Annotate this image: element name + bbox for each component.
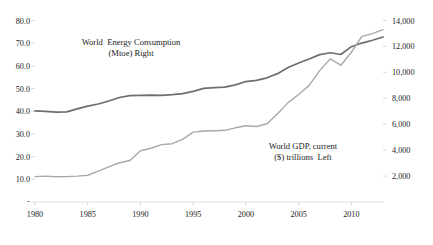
right-axis-tick-label: 8,000 xyxy=(392,94,410,103)
chart-container: -10.020.030.040.050.060.070.080.0 2,0004… xyxy=(0,0,433,245)
energy-annotation-line2: (Mtoe) Right xyxy=(108,48,154,58)
energy-annotation-line1: World Energy Consumption xyxy=(82,37,181,47)
left-axis-tick-label: 40.0 xyxy=(16,107,30,116)
x-axis-tick-label: 1995 xyxy=(185,210,201,219)
left-axis-tick-label: 10.0 xyxy=(16,175,30,184)
left-axis-tick-label: 20.0 xyxy=(16,153,30,162)
gdp-annotation-line2: ($) trillions Left xyxy=(274,152,332,162)
right-axis-tick-label: 4,000 xyxy=(392,146,410,155)
gdp-series-annotation: World GDP, current ($) trillions Left xyxy=(269,141,338,162)
right-axis-tick-label: 12,000 xyxy=(392,42,415,51)
x-axis-tick-label: 1985 xyxy=(80,210,96,219)
left-axis-tick-label: 70.0 xyxy=(16,39,30,48)
left-axis-tick-label: 60.0 xyxy=(16,62,30,71)
x-axis-tick-label: 1980 xyxy=(27,210,43,219)
x-axis-tick-label: 2000 xyxy=(238,210,254,219)
left-axis-tick-label: - xyxy=(27,197,30,206)
left-axis-tick-label: 30.0 xyxy=(16,130,30,139)
right-axis-tick-label: 10,000 xyxy=(392,68,415,77)
gdp-annotation-line1: World GDP, current xyxy=(269,141,338,151)
x-axis-tick-label: 2010 xyxy=(343,210,359,219)
right-axis-tick-label: 2,000 xyxy=(392,172,410,181)
x-axis-tick-label: 2005 xyxy=(290,210,306,219)
dual-axis-line-chart: -10.020.030.040.050.060.070.080.0 2,0004… xyxy=(0,0,433,245)
left-axis-tick-label: 50.0 xyxy=(16,85,30,94)
chart-background xyxy=(0,0,433,245)
x-axis-tick-label: 1990 xyxy=(132,210,148,219)
left-axis-tick-label: 80.0 xyxy=(16,17,30,26)
right-axis-tick-label: 14,000 xyxy=(392,17,415,26)
right-axis-tick-label: 6,000 xyxy=(392,120,410,129)
